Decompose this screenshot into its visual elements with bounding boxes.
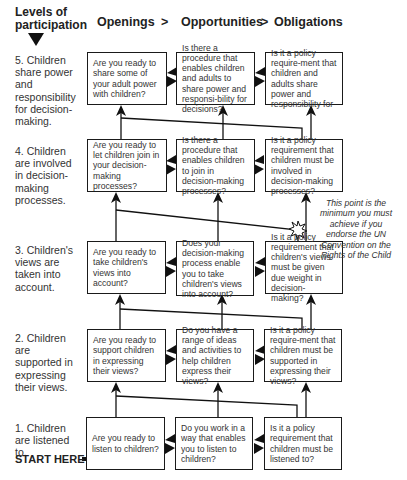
level-label-2: 2. Children are supported in expressing … bbox=[15, 332, 77, 393]
column-header-opportunities: Opportunities bbox=[181, 15, 263, 29]
level-label-5: 5. Children share power and responsibili… bbox=[15, 54, 81, 127]
box-1-obligations: Is it a policy requirement that children… bbox=[264, 417, 342, 470]
box-text: Is there a procedure that enables childr… bbox=[182, 135, 249, 196]
column-header-openings: Openings bbox=[97, 15, 155, 29]
minimum-point-note: This point is the minimum you must achie… bbox=[314, 198, 398, 260]
box-4-opportunities: Is there a procedure that enables childr… bbox=[176, 139, 255, 192]
box-2-obligations: Is it a policy require-ment that childre… bbox=[264, 329, 342, 382]
box-text: Does your decision-making process enable… bbox=[182, 238, 248, 299]
box-2-opportunities: Do you have a range of ideas and activit… bbox=[176, 329, 254, 382]
down-triangle-icon bbox=[28, 33, 44, 46]
box-text: Are you ready to listen to children? bbox=[92, 433, 159, 453]
box-1-openings: Are you ready to listen to children? bbox=[86, 417, 165, 470]
box-3-opportunities: Does your decision-making process enable… bbox=[176, 241, 254, 296]
box-text: Are you ready to share some of your adul… bbox=[93, 58, 161, 99]
column-header-obligations: Obligations bbox=[274, 15, 343, 29]
box-5-obligations: Is it a policy require-ment that childre… bbox=[265, 52, 343, 105]
levels-title-line2: participation bbox=[15, 19, 87, 32]
box-1-opportunities: Do you work in a way that enables you to… bbox=[175, 417, 253, 470]
box-text: Is it a policy require-ment that childre… bbox=[271, 48, 337, 109]
box-3-openings: Are you ready to take children's views i… bbox=[87, 241, 166, 294]
box-text: Is it a policy requirement that children… bbox=[271, 135, 337, 196]
box-text: Do you have a range of ideas and activit… bbox=[182, 325, 248, 386]
box-4-openings: Are you ready to let children join in yo… bbox=[87, 139, 167, 192]
box-text: Do you work in a way that enables you to… bbox=[181, 423, 247, 464]
box-5-openings: Are you ready to share some of your adul… bbox=[87, 52, 167, 105]
box-text: Is it a policy requirement that children… bbox=[270, 423, 336, 464]
box-text: Are you ready to support children in exp… bbox=[93, 335, 160, 376]
column-separator-1: > bbox=[161, 15, 168, 29]
box-4-obligations: Is it a policy requirement that children… bbox=[265, 139, 343, 192]
levels-title: Levels of participation bbox=[15, 6, 87, 32]
box-2-openings: Are you ready to support children in exp… bbox=[87, 329, 166, 382]
start-here-label: START HERE bbox=[15, 453, 84, 465]
box-text: Are you ready to let children join in yo… bbox=[93, 140, 161, 191]
box-text: Is there a procedure that enables childr… bbox=[182, 43, 249, 114]
box-text: Is it a policy require-ment that childre… bbox=[270, 325, 336, 386]
column-header-obligations-sep: > bbox=[261, 15, 268, 29]
box-text: Are you ready to take children's views i… bbox=[93, 247, 160, 288]
level-label-3: 3. Children's views are taken into accou… bbox=[15, 244, 75, 293]
level-label-4: 4. Children are involved in decision-mak… bbox=[15, 145, 77, 206]
box-5-opportunities: Is there a procedure that enables childr… bbox=[176, 52, 255, 105]
